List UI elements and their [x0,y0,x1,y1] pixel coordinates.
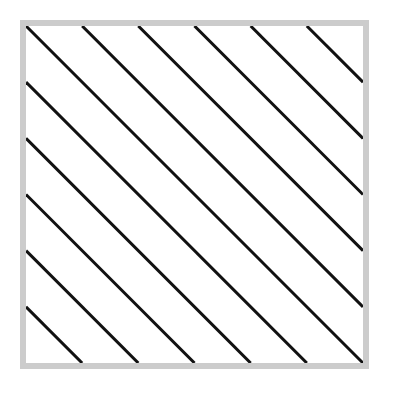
hatch-line-upper [307,26,363,82]
hatch-line-upper [251,26,363,138]
diagonal-hatch-lines [26,26,363,363]
hatch-line-lower [26,307,82,363]
hatch-line-lower [26,82,307,363]
hatch-line-lower [26,138,251,363]
hatch-line-upper [195,26,364,195]
hatch-line-upper [82,26,363,307]
hatch-line-upper [138,26,363,251]
hatched-square [20,20,369,369]
hatch-line-lower [26,195,195,364]
hatch-line-main [26,26,363,363]
hatch-line-lower [26,251,138,363]
